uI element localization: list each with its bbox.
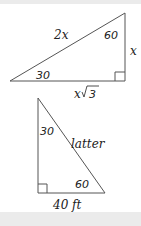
base-label-top: x 3 — [74, 86, 99, 101]
hypotenuse-label-bottom: latter — [71, 137, 106, 151]
angle-30-label-bottom: 30 — [40, 125, 54, 138]
triangle-bottom: 30 latter 60 40 ft — [38, 98, 106, 212]
diagram-canvas: 2x 60 x 30 x 3 30 latter 60 40 ft — [0, 0, 141, 226]
triangle-top: 2x 60 x 30 x 3 — [10, 13, 137, 101]
angle-60-label-top: 60 — [104, 29, 118, 42]
right-angle-marker-bottom — [38, 184, 47, 193]
right-angle-marker-top — [115, 72, 125, 81]
base-label-bottom: 40 ft — [52, 198, 82, 212]
angle-60-label-bottom: 60 — [75, 178, 89, 191]
base-label-root: 3 — [89, 88, 96, 101]
vertical-side-label: x — [130, 44, 137, 58]
angle-30-label-top: 30 — [36, 69, 50, 82]
base-label-x: x — [74, 87, 81, 101]
hypotenuse-label-top: 2x — [53, 28, 69, 42]
triangle-top-outline — [10, 13, 125, 81]
